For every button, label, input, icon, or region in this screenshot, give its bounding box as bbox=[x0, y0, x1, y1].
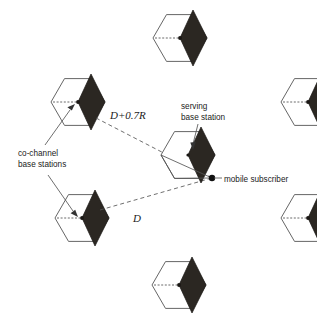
cell-bottom-site-dot bbox=[177, 283, 181, 287]
co-channel-base-stations-label-line2: base stations bbox=[18, 160, 66, 169]
co-channel-interference-diagram: serving base station co-channel base sta… bbox=[0, 0, 317, 321]
cell-lower-right-site-dot bbox=[306, 216, 310, 220]
distance-line-near bbox=[100, 178, 212, 210]
diagram-canvas: serving base station co-channel base sta… bbox=[0, 0, 317, 321]
co-channel-leader-line-upper bbox=[45, 110, 70, 145]
cell-lower-right bbox=[281, 190, 317, 246]
cell-upper-right bbox=[281, 74, 317, 130]
serving-base-station-label-line1: serving bbox=[181, 102, 208, 111]
cell-top-site-dot bbox=[178, 36, 182, 40]
serving-base-station-label-line2: base station bbox=[181, 113, 226, 122]
cell-center bbox=[161, 127, 215, 183]
cell-center-site-dot bbox=[186, 153, 189, 156]
cell-upper-right-site-dot bbox=[306, 100, 310, 104]
co-channel-base-stations-label-line1: co-channel bbox=[18, 149, 58, 158]
mobile-subscriber-label: mobile subscriber bbox=[224, 175, 288, 184]
cell-lower-left-site-dot bbox=[80, 216, 84, 220]
cell-top bbox=[153, 10, 207, 66]
cell-upper-left bbox=[51, 74, 105, 130]
distance-far-label: D+0.7R bbox=[109, 109, 146, 121]
cell-upper-left-site-dot bbox=[76, 100, 80, 104]
cell-bottom bbox=[152, 257, 206, 313]
distance-near-label: D bbox=[132, 212, 141, 224]
co-channel-leader-line-lower bbox=[48, 175, 73, 211]
cell-lower-left bbox=[55, 190, 109, 246]
